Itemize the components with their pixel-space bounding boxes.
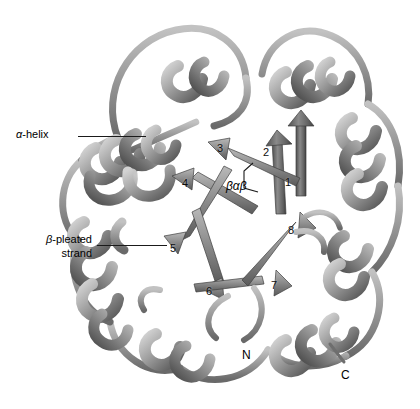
beta-pleated-strand-label: β-pleated strand <box>8 233 92 261</box>
c-terminus-label: C <box>341 368 350 382</box>
alpha-helix-left-upper <box>85 130 176 200</box>
beta-strand-leader-line <box>97 245 167 246</box>
alpha-helix-label: α-helix <box>16 128 49 142</box>
strand-label-6: 6 <box>206 285 212 297</box>
strand-label-2: 2 <box>263 146 269 158</box>
strand-label-3: 3 <box>217 142 223 154</box>
alpha-helix-label-text: -helix <box>22 128 48 140</box>
alpha-helix-right-lower <box>329 236 368 295</box>
strand-label-8: 8 <box>288 224 294 236</box>
beta-strand-label-line2: strand <box>61 247 92 259</box>
n-terminus-label: N <box>242 348 251 362</box>
beta-strand-label-text: -pleated <box>52 233 92 245</box>
ribbon-diagram-canvas <box>0 0 420 409</box>
bab-motif-label: βαβ <box>226 179 247 194</box>
strand-label-1: 1 <box>285 176 291 188</box>
alpha-helix-top-center <box>167 62 224 97</box>
protein-structure-figure: α-helix β-pleated strand βαβ 1 2 3 4 5 6… <box>0 0 420 409</box>
alpha-helix-top-right <box>275 62 350 103</box>
strand-label-7: 7 <box>271 279 277 291</box>
strand-label-4: 4 <box>182 177 188 189</box>
strand-label-5: 5 <box>170 242 176 254</box>
alpha-helix-right-upper <box>341 118 382 205</box>
alpha-helix-leader-line <box>78 136 146 137</box>
